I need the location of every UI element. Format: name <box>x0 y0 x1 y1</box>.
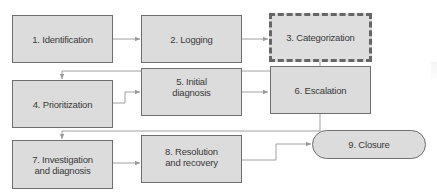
step-prioritization-label: 4. Prioritization <box>29 99 96 110</box>
step-prioritization: 4. Prioritization <box>12 80 113 128</box>
step-closure: 9. Closure <box>312 130 426 159</box>
step-investigation-and-diagnosis-label: 7. Investigation and diagnosis <box>28 154 97 176</box>
page-edge-artifact <box>431 62 437 82</box>
step-escalation: 6. Escalation <box>270 66 371 114</box>
step-resolution-and-recovery-label: 8. Resolution and recovery <box>161 146 222 168</box>
step-initial-diagnosis: 5. Initial diagnosis <box>141 68 242 116</box>
step-resolution-and-recovery: 8. Resolution and recovery <box>141 135 242 183</box>
step-initial-diagnosis-label: 5. Initial diagnosis <box>168 76 214 98</box>
step-categorization: 3. Categorization <box>269 13 372 62</box>
step-closure-label: 9. Closure <box>344 139 393 150</box>
step-categorization-label: 3. Categorization <box>282 32 358 43</box>
step-escalation-label: 6. Escalation <box>291 85 351 96</box>
incident-management-flowchart: 1. Identification 2. Logging 3. Categori… <box>0 0 437 195</box>
connector-8-to-9 <box>242 144 311 160</box>
step-logging: 2. Logging <box>141 15 242 63</box>
step-logging-label: 2. Logging <box>166 34 216 45</box>
connector-4-to-5 <box>113 92 140 103</box>
step-identification-label: 1. Identification <box>28 34 97 45</box>
step-investigation-and-diagnosis: 7. Investigation and diagnosis <box>12 140 113 189</box>
step-identification: 1. Identification <box>12 15 113 63</box>
